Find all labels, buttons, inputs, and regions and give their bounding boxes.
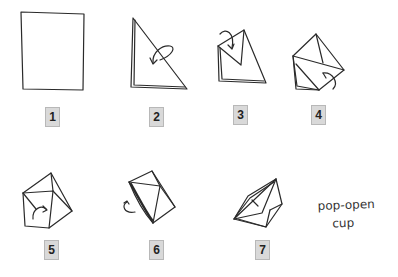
step-7-drawing [234,179,282,227]
step-label-3: 3 [233,105,248,125]
step-4-drawing [293,34,344,90]
step-label-2: 2 [149,107,164,127]
fold-arrow-icon [33,207,46,219]
origami-diagram [0,0,398,277]
step-5-drawing [23,173,72,228]
step-label-1: 1 [45,107,60,127]
step-label-4: 4 [311,105,326,125]
step-1-drawing [21,12,84,90]
fold-arrow-icon [220,31,233,48]
caption: pop-open cup [317,195,375,233]
step-label-7: 7 [255,240,270,260]
step-2-drawing [131,18,187,89]
caption-line-1: pop-open [317,195,375,215]
fold-arrow-icon [124,202,135,212]
step-label-5: 5 [44,240,59,260]
step-label-6: 6 [149,240,164,260]
step-6-drawing [124,171,175,223]
caption-line-2: cup [318,213,376,233]
step-3-drawing [218,30,266,83]
